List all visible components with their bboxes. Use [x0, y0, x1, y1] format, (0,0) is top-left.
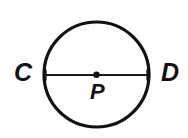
point-label-c: C	[14, 60, 32, 85]
center-point-dot-icon	[93, 72, 99, 78]
point-label-p: P	[90, 81, 105, 103]
geometry-figure: C D P	[0, 0, 188, 138]
point-label-d: D	[161, 60, 179, 85]
